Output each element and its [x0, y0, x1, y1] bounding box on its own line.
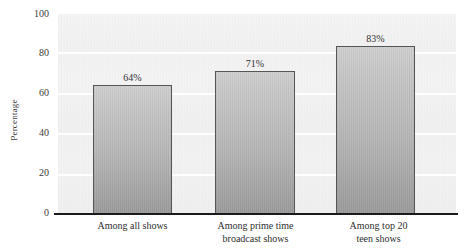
- bar-among-prime-time-broadcast-shows[interactable]: [215, 71, 295, 214]
- bar-chart: Percentage 100 80 60 40 20 0 64% 71% 83%: [0, 0, 474, 252]
- y-tick-label-0: 0: [0, 208, 54, 218]
- x-label-line-2: teen shows: [313, 232, 444, 245]
- bar-among-all-shows[interactable]: [93, 85, 172, 214]
- x-label-line-2: broadcast shows: [190, 232, 321, 245]
- x-label-line-1: Among all shows: [98, 220, 168, 231]
- plot-area: 64% 71% 83%: [58, 12, 456, 214]
- bar-value-label-2: 71%: [215, 58, 295, 69]
- x-axis-category-labels: Among all shows Among prime time broadca…: [58, 219, 456, 252]
- bar-value-label-1: 64%: [93, 72, 172, 83]
- y-tick-label-80: 80: [0, 48, 54, 58]
- x-label-line-1: Among top 20: [350, 220, 408, 231]
- y-tick-label-40: 40: [0, 128, 54, 138]
- bar-value-label-3: 83%: [336, 33, 415, 44]
- y-tick-label-100: 100: [0, 9, 54, 19]
- y-tick-label-60: 60: [0, 88, 54, 98]
- x-label-among-all-shows: Among all shows: [67, 219, 198, 232]
- bar-among-top-20-teen-shows[interactable]: [336, 46, 415, 214]
- x-axis-line: [54, 213, 458, 215]
- x-label-among-top-20-teen-shows: Among top 20 teen shows: [313, 219, 444, 245]
- y-axis-tick-labels: 100 80 60 40 20 0: [0, 0, 54, 252]
- y-tick-label-20: 20: [0, 168, 54, 178]
- scan-artifact: [94, 40, 98, 52]
- x-label-line-1: Among prime time: [217, 220, 293, 231]
- x-label-among-prime-time-broadcast-shows: Among prime time broadcast shows: [190, 219, 321, 245]
- gridline-100: [58, 12, 456, 14]
